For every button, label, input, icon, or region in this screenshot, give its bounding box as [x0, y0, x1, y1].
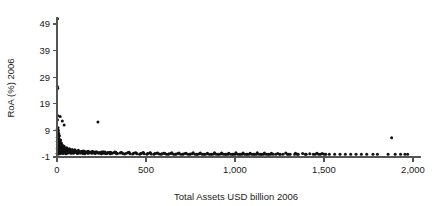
- axes-group: [57, 17, 421, 157]
- data-point: [76, 152, 79, 155]
- data-point: [289, 153, 292, 156]
- plot-area: -1919293949 05001,0001,5002,000 Total As…: [0, 0, 439, 206]
- data-point: [83, 152, 86, 155]
- y-tick-label: 29: [39, 72, 50, 83]
- data-point: [93, 151, 96, 154]
- data-point: [96, 120, 99, 123]
- data-point: [390, 136, 393, 139]
- data-point: [188, 153, 191, 156]
- data-point: [138, 153, 141, 156]
- data-point: [387, 153, 390, 156]
- data-point: [406, 153, 409, 156]
- y-tick-label: 19: [39, 98, 50, 109]
- x-axis-title: Total Assets USD billion 2006: [174, 191, 298, 202]
- data-point: [371, 153, 374, 156]
- data-points-group: [56, 17, 409, 156]
- data-point: [72, 151, 75, 154]
- data-point: [202, 153, 205, 156]
- data-point: [174, 153, 177, 156]
- data-point: [242, 152, 245, 155]
- data-point: [220, 152, 223, 155]
- data-point: [399, 153, 402, 156]
- data-point: [59, 115, 62, 118]
- data-point: [360, 153, 363, 156]
- data-point: [120, 151, 123, 154]
- data-point: [294, 152, 297, 155]
- data-point: [185, 152, 188, 155]
- data-point: [156, 152, 159, 155]
- data-point: [192, 151, 195, 154]
- data-point: [123, 152, 126, 155]
- data-point: [88, 152, 91, 155]
- y-tick-label: 39: [39, 45, 50, 56]
- data-point: [403, 153, 406, 156]
- x-tick-label: 0: [54, 164, 59, 175]
- data-point: [279, 153, 282, 156]
- data-point: [282, 153, 285, 156]
- data-point: [135, 152, 138, 155]
- x-axis-ticks: 05001,0001,5002,000: [54, 157, 425, 175]
- data-point: [321, 152, 324, 155]
- data-point: [301, 152, 304, 155]
- data-point: [328, 153, 331, 156]
- data-point: [234, 151, 237, 154]
- y-axis-title: RoA (%) 2006: [5, 58, 16, 117]
- data-point: [131, 153, 134, 156]
- data-point: [344, 153, 347, 156]
- x-tick-label: 2,000: [401, 164, 425, 175]
- data-point: [167, 153, 170, 156]
- data-point: [113, 150, 116, 153]
- x-tick-label: 1,000: [223, 164, 247, 175]
- data-point: [153, 153, 156, 156]
- y-axis-ticks: -1919293949: [39, 18, 57, 162]
- data-point: [304, 153, 307, 156]
- data-point: [355, 153, 358, 156]
- data-point: [217, 153, 220, 156]
- data-point: [276, 152, 279, 155]
- data-point: [394, 153, 397, 156]
- data-point: [99, 152, 102, 155]
- data-point: [145, 153, 148, 156]
- data-point: [63, 124, 66, 127]
- data-point: [259, 153, 262, 156]
- data-point: [297, 153, 300, 156]
- data-point: [315, 152, 318, 155]
- data-point: [102, 150, 105, 153]
- y-tick-label: 9: [45, 125, 50, 136]
- data-point: [312, 153, 315, 156]
- data-point: [249, 152, 252, 155]
- data-point: [238, 153, 241, 156]
- data-point: [206, 152, 209, 155]
- data-point: [263, 152, 266, 155]
- data-point: [256, 151, 259, 154]
- data-point: [349, 153, 352, 156]
- data-point: [128, 151, 131, 154]
- y-tick-label: 49: [39, 18, 50, 29]
- data-point: [61, 120, 64, 123]
- data-point: [181, 153, 184, 156]
- data-point: [284, 152, 287, 155]
- data-point: [224, 153, 227, 156]
- data-point: [160, 153, 163, 156]
- data-point: [163, 152, 166, 155]
- data-point: [142, 151, 145, 154]
- data-point: [195, 153, 198, 156]
- x-tick-label: 1,500: [312, 164, 336, 175]
- data-point: [104, 152, 107, 155]
- data-point: [110, 151, 113, 154]
- data-point: [270, 152, 273, 155]
- data-point: [79, 151, 82, 154]
- data-point: [149, 151, 152, 154]
- data-point: [252, 153, 255, 156]
- x-tick-label: 500: [138, 164, 154, 175]
- data-point: [177, 152, 180, 155]
- data-point: [199, 152, 202, 155]
- data-point: [227, 152, 230, 155]
- data-point: [376, 153, 379, 156]
- data-point: [339, 153, 342, 156]
- data-point: [333, 153, 336, 156]
- scatter-chart: -1919293949 05001,0001,5002,000 Total As…: [0, 0, 439, 206]
- data-point: [365, 153, 368, 156]
- data-point: [231, 153, 234, 156]
- y-tick-label: -1: [42, 151, 50, 162]
